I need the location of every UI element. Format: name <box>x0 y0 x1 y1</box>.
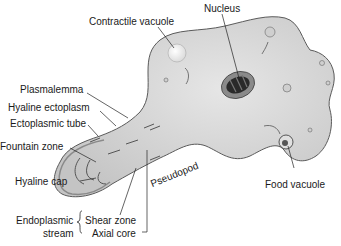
contractile-vacuole <box>168 44 186 62</box>
food-vacuole <box>279 135 293 149</box>
label-endoplasmic: Endoplasmic <box>16 215 73 226</box>
label-food-vacuole: Food vacuole <box>265 179 325 190</box>
label-shear-zone: Shear zone <box>85 215 136 226</box>
label-axial-core: Axial core <box>92 228 136 239</box>
label-hyaline-cap: Hyaline cap <box>15 176 67 187</box>
label-ectoplasmic-tube: Ectoplasmic tube <box>10 118 86 129</box>
label-fountain-zone: Fountain zone <box>0 141 63 152</box>
label-plasmalemma: Plasmalemma <box>20 84 83 95</box>
label-nucleus: Nucleus <box>204 3 240 14</box>
bracket <box>77 211 82 233</box>
label-contractile-vacuole: Contractile vacuole <box>89 16 174 27</box>
label-hyaline-ectoplasm: Hyaline ectoplasm <box>8 102 90 113</box>
label-stream: stream <box>43 228 74 239</box>
